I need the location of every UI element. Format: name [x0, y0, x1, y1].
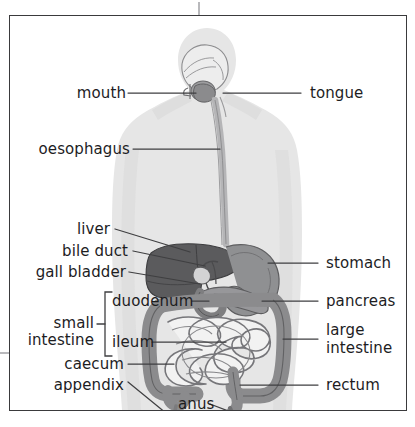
label-bile-duct: bile duct — [8, 243, 128, 260]
label-duodenum: duodenum — [112, 293, 193, 310]
label-ileum: ileum — [112, 334, 154, 351]
label-small-intestine-line2: intestine — [10, 332, 94, 349]
label-rectum: rectum — [326, 377, 380, 394]
label-oesophagus: oesophagus — [8, 141, 130, 158]
label-appendix: appendix — [24, 377, 124, 394]
label-gall-bladder: gall bladder — [4, 264, 126, 281]
anus-organ — [230, 408, 232, 419]
label-pancreas: pancreas — [326, 293, 395, 310]
label-caecum: caecum — [24, 356, 124, 373]
label-mouth: mouth — [18, 85, 126, 102]
label-large-intestine: largeintestine — [326, 322, 402, 357]
label-large-intestine-line1: largeintestine — [326, 321, 392, 357]
label-liver: liver — [18, 221, 110, 238]
small-intestine-bracket — [97, 292, 112, 356]
label-anus: anus — [178, 396, 214, 413]
label-stomach: stomach — [326, 255, 391, 272]
label-small-intestine-line1: small — [18, 315, 94, 332]
label-tongue: tongue — [310, 85, 363, 102]
diagram-page: mouth oesophagus liver bile duct gall bl… — [0, 0, 415, 427]
rectum-organ — [230, 372, 237, 419]
